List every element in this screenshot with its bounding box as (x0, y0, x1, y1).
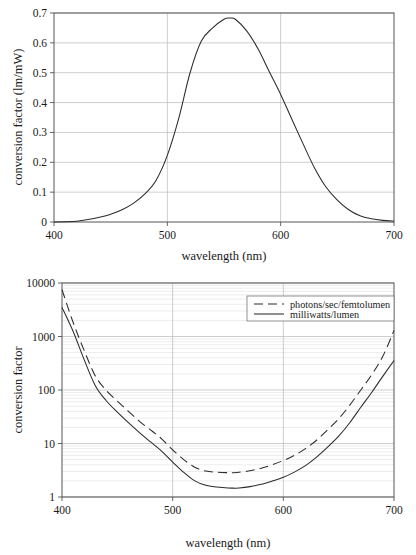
x-tick-label: 700 (385, 229, 403, 241)
chart-panel-luminous-efficacy: 00.10.20.30.40.50.60.7 400500600700 wave… (0, 0, 416, 268)
y-tick-label: 0 (41, 216, 47, 228)
y-tick-label: 0.2 (33, 156, 48, 168)
y-tick-label: 10000 (26, 277, 55, 289)
x-tick-label: 700 (385, 504, 403, 516)
x-tick-labels-group: 400500600700 (53, 504, 403, 516)
x-tick-label: 600 (272, 229, 290, 241)
x-axis-title: wavelength (nm) (185, 536, 270, 550)
y-axis-title: conversion factor (lm/mW) (11, 49, 25, 186)
chart-panel-conversion-log: 110100100010000 400500600700 photons/sec… (0, 268, 416, 555)
y-tick-label: 0.4 (33, 97, 48, 109)
curve-milliwatts-per-lumen (62, 307, 394, 488)
x-tick-label: 400 (53, 504, 71, 516)
x-axis-title: wavelength (nm) (181, 249, 266, 263)
y-tick-labels-group: 00.10.20.30.40.50.60.7 (33, 7, 48, 228)
legend-label-milliwatts: milliwatts/lumen (290, 309, 359, 320)
y-tick-label: 1000 (32, 331, 55, 343)
y-tick-label: 0.7 (33, 7, 48, 19)
legend: photons/sec/femtolumen milliwatts/lumen (247, 296, 394, 321)
y-tick-label: 1 (49, 491, 55, 503)
x-tick-label: 400 (45, 229, 63, 241)
log-chart-svg: 110100100010000 400500600700 photons/sec… (0, 268, 416, 555)
y-tick-label: 0.1 (33, 186, 48, 198)
x-tick-label: 500 (164, 504, 182, 516)
y-tick-label: 0.3 (33, 126, 48, 138)
linear-chart-svg: 00.10.20.30.40.50.60.7 400500600700 wave… (0, 0, 416, 268)
tick-marks-group (50, 13, 394, 226)
y-tick-label: 0.6 (33, 37, 48, 49)
figure-container: 00.10.20.30.40.50.60.7 400500600700 wave… (0, 0, 416, 555)
y-axis-title: conversion factor (11, 346, 25, 434)
y-tick-labels-group: 110100100010000 (26, 277, 55, 503)
x-tick-label: 500 (159, 229, 177, 241)
x-tick-label: 600 (275, 504, 293, 516)
y-tick-label: 0.5 (33, 67, 48, 79)
y-tick-label: 100 (38, 384, 56, 396)
plot-frame (54, 13, 394, 222)
y-tick-label: 10 (44, 438, 56, 450)
curve-luminous-efficacy (54, 18, 394, 222)
gridlines-group (54, 13, 394, 222)
x-tick-labels-group: 400500600700 (45, 229, 403, 241)
